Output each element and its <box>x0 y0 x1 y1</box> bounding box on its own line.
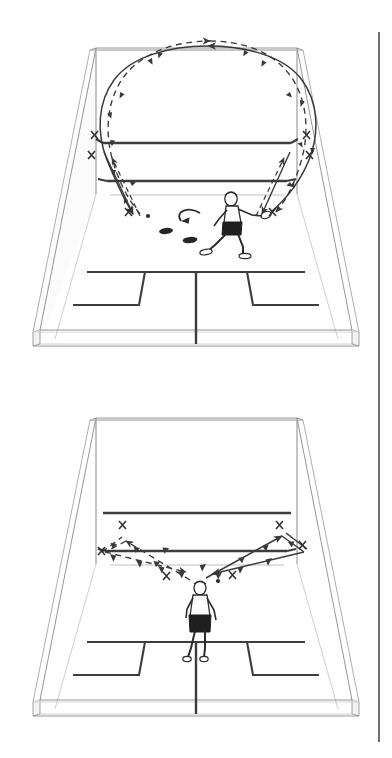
side-descent-dashed-top <box>112 158 284 216</box>
left-v-arrowheads-bottom <box>110 543 184 579</box>
page-canvas <box>0 0 392 758</box>
right-v-trajectory-bottom <box>206 533 307 578</box>
cone-marker-left-top <box>159 227 174 235</box>
figure-bottom-squash-court-drill <box>0 380 392 758</box>
floor-markings-top <box>73 272 319 344</box>
player-figure-bottom <box>183 581 216 661</box>
left-service-box-top <box>73 272 145 305</box>
dashed-loop-trajectory-top <box>108 41 306 214</box>
left-side-wall-top <box>33 48 96 344</box>
ball-dot-bottom <box>216 579 220 583</box>
x-mark <box>119 521 126 529</box>
service-line-right-wall-bottom <box>287 549 296 551</box>
ball-dot-top <box>146 214 150 218</box>
dashed-trajectory-arrowheads-top <box>110 50 303 187</box>
player-movement-arrowhead-top <box>181 217 190 224</box>
front-wall-lines-top <box>96 139 298 195</box>
x-mark <box>163 572 170 580</box>
figure-top-squash-court-drill <box>0 0 392 382</box>
solid-trajectory-arrowheads-top <box>107 58 315 204</box>
right-page-margin-rule <box>378 32 380 742</box>
player-movement-arrow-top <box>179 210 200 221</box>
x-mark <box>276 521 283 529</box>
right-service-box-top <box>247 272 319 305</box>
x-mark <box>229 571 236 579</box>
cone-marker-right-top <box>182 236 197 243</box>
solid-loop-trajectory-top <box>100 46 316 214</box>
floor-markings-bottom <box>73 642 319 714</box>
player-figure-top <box>199 192 272 259</box>
service-line-left-wall-top <box>98 179 107 181</box>
x-mark <box>299 541 306 549</box>
right-service-box-bottom <box>247 642 319 675</box>
left-v-trajectory-bottom <box>102 537 190 580</box>
left-service-box-bottom <box>73 642 145 675</box>
